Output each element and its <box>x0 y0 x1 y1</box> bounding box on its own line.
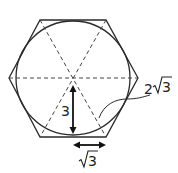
svg-text:2: 2 <box>144 81 153 97</box>
half-side-arrow <box>73 142 106 149</box>
svg-text:3: 3 <box>162 79 171 95</box>
leader-curve <box>99 95 150 118</box>
hexagon-circle-diagram: 3 3 2 3 <box>0 0 178 173</box>
side-label: 2 3 <box>144 77 172 97</box>
half-side-label: 3 <box>79 151 98 169</box>
apothem-label: 3 <box>61 103 70 119</box>
apothem-arrow <box>70 85 77 134</box>
svg-text:3: 3 <box>88 153 97 169</box>
